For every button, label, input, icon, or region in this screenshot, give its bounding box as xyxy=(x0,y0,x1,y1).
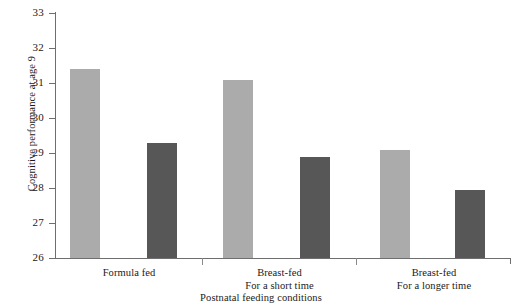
bar-dark-gray-series-group-2 xyxy=(300,157,330,259)
y-tick-label-33: 33 xyxy=(18,7,44,18)
y-tick-label-28: 28 xyxy=(18,182,44,193)
group-separator-2 xyxy=(356,258,357,265)
bar-light-gray-series-group-3 xyxy=(380,150,410,259)
x-group-label-2-line2: For a short time xyxy=(203,279,356,292)
y-tick-28 xyxy=(49,188,55,189)
x-axis-end-tick xyxy=(510,258,511,264)
y-tick-29 xyxy=(49,153,55,154)
x-axis-title: Postnatal feeding conditions xyxy=(0,292,522,303)
x-group-label-3-line1: Breast-fed xyxy=(357,266,511,279)
x-group-label-2-line1: Breast-fed xyxy=(203,266,356,279)
y-tick-26 xyxy=(49,258,55,259)
y-tick-label-27: 27 xyxy=(18,217,44,228)
bar-light-gray-series-group-1 xyxy=(70,69,100,258)
x-group-label-2: Breast-fed For a short time xyxy=(203,266,356,292)
bar-dark-gray-series-group-1 xyxy=(147,143,177,259)
plot-area xyxy=(56,13,510,258)
y-tick-31 xyxy=(49,83,55,84)
y-tick-label-30: 30 xyxy=(18,112,44,123)
bar-dark-gray-series-group-3 xyxy=(455,190,485,258)
bar-light-gray-series-group-2 xyxy=(223,80,253,259)
x-group-label-1: Formula fed xyxy=(56,266,202,279)
y-tick-33 xyxy=(49,13,55,14)
y-tick-27 xyxy=(49,223,55,224)
y-tick-label-29: 29 xyxy=(18,147,44,158)
y-tick-label-26: 26 xyxy=(18,252,44,263)
group-separator-1 xyxy=(202,258,203,265)
y-tick-label-31: 31 xyxy=(18,77,44,88)
y-tick-32 xyxy=(49,48,55,49)
x-axis-line xyxy=(55,258,511,259)
x-group-label-3: Breast-fed For a longer time xyxy=(357,266,511,292)
y-tick-label-32: 32 xyxy=(18,42,44,53)
bar-chart: Cognitive performance at age 9 262728293… xyxy=(0,0,522,308)
x-group-label-3-line2: For a longer time xyxy=(357,279,511,292)
x-group-label-1-line1: Formula fed xyxy=(56,266,202,279)
y-tick-30 xyxy=(49,118,55,119)
